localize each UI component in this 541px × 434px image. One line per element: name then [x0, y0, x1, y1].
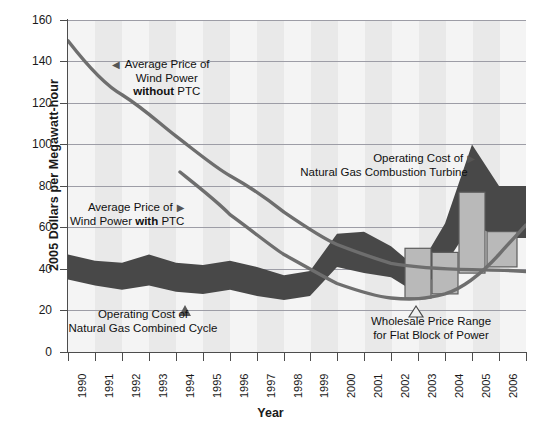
- annotation-line-3-rest: PTC: [174, 85, 200, 97]
- chart-root: 2005 Dollars per Megawatt-hour: [0, 0, 541, 434]
- y-tick-label-40: 40: [8, 263, 52, 275]
- x-tick-label-2003: 2003: [427, 374, 438, 398]
- y-tick-label-20: 20: [8, 304, 52, 316]
- annotation-wind-without-ptc: ◀ Average Price of Wind Power without PT…: [112, 58, 210, 99]
- annotation-wholesale-price-range: Wholesale Price Range for Flat Block of …: [367, 315, 495, 342]
- x-tick-label-2002: 2002: [400, 374, 411, 398]
- x-axis-title: Year: [0, 406, 541, 420]
- annotation-line-2: Natural Gas Combined Cycle: [58, 322, 228, 336]
- y-tick-label-80: 80: [8, 180, 52, 192]
- annotation-wind-with-ptc: Average Price of ▶ Wind Power with PTC: [70, 201, 184, 228]
- x-tick-label-1995: 1995: [212, 374, 223, 398]
- annotation-line-1: Wholesale Price Range: [367, 315, 495, 329]
- annotation-line-2-post: PTC: [158, 215, 184, 227]
- annotation-line-2-pre: Wind Power: [70, 215, 135, 227]
- annotation-line-2: Wind Power with PTC: [70, 215, 184, 229]
- y-tick-label-120: 120: [8, 97, 52, 109]
- right-triangle-icon: ▶: [177, 203, 185, 213]
- x-tick-label-1996: 1996: [239, 374, 250, 398]
- x-tick-label-2000: 2000: [346, 374, 357, 398]
- annotation-ngcc: Operating Cost of Natural Gas Combined C…: [58, 308, 228, 335]
- y-tick-label-0: 0: [8, 346, 52, 358]
- annotation-line-2: Natural Gas Combustion Turbine: [291, 166, 477, 180]
- x-tick-label-1994: 1994: [185, 374, 196, 398]
- left-triangle-icon: ◀: [112, 60, 120, 70]
- x-tick-label-2004: 2004: [454, 374, 465, 398]
- y-tick-label-160: 160: [8, 14, 52, 26]
- y-tick-label-60: 60: [8, 221, 52, 233]
- annotation-line-1: Average Price of: [125, 58, 210, 72]
- x-tick-label-1992: 1992: [131, 374, 142, 398]
- annotation-line-1: Average Price of: [88, 201, 173, 215]
- annotation-line-2: for Flat Block of Power: [367, 329, 495, 343]
- x-tick-label-1997: 1997: [266, 374, 277, 398]
- wholesale-box-2004: [432, 252, 458, 294]
- x-tick-label-1998: 1998: [293, 374, 304, 398]
- x-tick-label-2006: 2006: [508, 374, 519, 398]
- x-tick-label-2005: 2005: [481, 374, 492, 398]
- x-tick-label-1990: 1990: [77, 374, 88, 398]
- right-triangle-icon: ▶: [467, 154, 475, 164]
- wholesale-box-2003: [405, 248, 431, 298]
- annotation-line-3: without PTC: [112, 85, 210, 99]
- annotation-line-2: Wind Power: [112, 72, 210, 86]
- annotation-line-1: Operating Cost of: [373, 152, 463, 166]
- wholesale-box-2005: [459, 192, 485, 273]
- y-tick-label-100: 100: [8, 138, 52, 150]
- x-tick-label-1991: 1991: [104, 374, 115, 398]
- annotation-line-2-bold: with: [135, 215, 158, 227]
- y-axis-title: 2005 Dollars per Megawatt-hour: [47, 25, 61, 325]
- x-tick-label-1999: 1999: [319, 374, 330, 398]
- x-tick-label-1993: 1993: [158, 374, 169, 398]
- x-tick-label-2001: 2001: [373, 374, 384, 398]
- annotation-line-3-bold: without: [133, 85, 174, 97]
- y-tick-label-140: 140: [8, 55, 52, 67]
- annotation-line-1: Operating Cost of: [58, 308, 228, 322]
- annotation-ngct: Operating Cost of ▶ Natural Gas Combusti…: [291, 152, 477, 179]
